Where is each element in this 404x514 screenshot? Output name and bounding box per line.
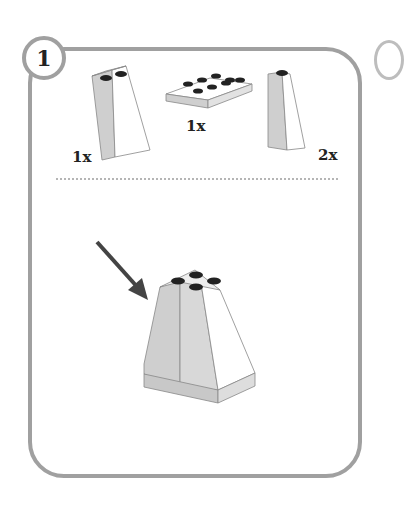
placement-arrow-icon	[97, 242, 148, 300]
part-slope-brick-1x2	[268, 70, 305, 150]
part-slope-brick-2x2	[92, 66, 150, 160]
assembled-model	[144, 270, 255, 403]
quantity-label: 1x	[72, 148, 91, 166]
part-plate-2x4	[166, 73, 252, 108]
quantity-label: 1x	[186, 117, 205, 135]
dotted-divider	[56, 178, 338, 180]
quantity-label: 2x	[318, 146, 337, 164]
